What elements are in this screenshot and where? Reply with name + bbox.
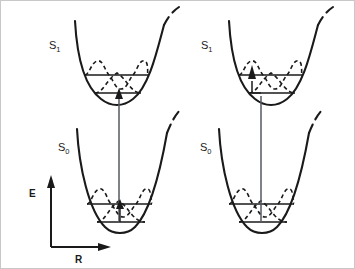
figure-canvas: S1 S0 [0, 0, 355, 269]
right-arrow-head [248, 65, 256, 79]
x-axis-arrowhead [98, 243, 111, 251]
s1-wavefunction-v0 [95, 73, 141, 93]
potential-energy-diagram: S1 S0 [1, 1, 355, 269]
left-transition-arrow [115, 88, 124, 223]
right-panel-s1-well: S1 [201, 7, 333, 105]
x-axis-label: R [75, 254, 83, 265]
left-s1-label: S1 [49, 39, 61, 54]
right-s0-potential-curve-dashed-extension [309, 109, 323, 133]
right-transition-arrow [248, 65, 261, 223]
left-panel-s1-well: S1 [49, 7, 179, 105]
right-s1-wavefunction-v0 [249, 73, 295, 93]
y-axis-arrowhead [47, 175, 55, 188]
right-s0-label: S0 [200, 141, 212, 156]
left-s0-label: S0 [58, 141, 70, 156]
right-s1-potential-curve-dashed-extension [318, 7, 333, 25]
s1-potential-curve-dashed-extension [164, 7, 179, 25]
right-s1-label: S1 [201, 39, 213, 54]
s0-potential-curve-dashed-extension [167, 109, 181, 133]
y-axis-label: E [29, 188, 36, 199]
